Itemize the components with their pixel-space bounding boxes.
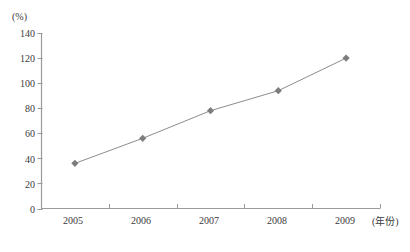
- data-point-marker: [275, 87, 282, 94]
- data-point-marker: [343, 54, 350, 61]
- data-point-marker: [139, 135, 146, 142]
- plot-area: [0, 0, 410, 252]
- data-point-marker: [71, 160, 78, 167]
- data-point-marker: [207, 107, 214, 114]
- line-chart: (%) (年份) 140 120 100 80 60 40 20 0 2005 …: [0, 0, 410, 252]
- axes: [41, 33, 380, 209]
- x-axis-ticks: [110, 204, 381, 209]
- data-point-markers: [71, 54, 349, 167]
